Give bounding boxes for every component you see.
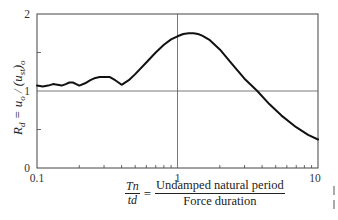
- x-label-lhs-numerator: Tn: [125, 180, 140, 194]
- x-tick-10: 10: [309, 172, 321, 184]
- y-tick-2: 2: [24, 8, 30, 20]
- cropped-fragment: [333, 200, 335, 209]
- x-label-rhs: Undamped natural period Force duration: [155, 178, 285, 209]
- x-label-lhs-denominator: td: [128, 194, 137, 207]
- cropped-fragment: [333, 186, 335, 195]
- x-axis-label: Tn td = Undamped natural period Force du…: [125, 178, 285, 209]
- x-label-lhs: Tn td: [125, 180, 140, 207]
- x-label-equals: =: [144, 186, 151, 202]
- x-tick-0.1: 0.1: [30, 172, 45, 184]
- y-axis-label: Rd = uo / (ust)o: [10, 60, 27, 136]
- x-label-rhs-denominator: Force duration: [183, 194, 256, 209]
- y-tick-1: 1: [24, 85, 30, 97]
- x-label-rhs-numerator: Undamped natural period: [155, 178, 285, 194]
